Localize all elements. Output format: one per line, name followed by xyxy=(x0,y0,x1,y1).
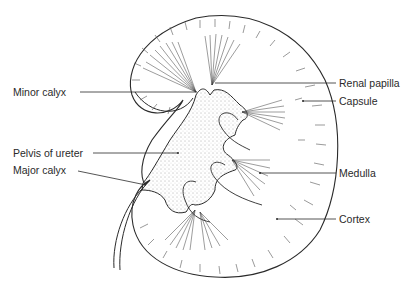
label-renal-papilla: Renal papilla xyxy=(339,77,400,89)
label-pelvis-of-ureter: Pelvis of ureter xyxy=(13,147,83,159)
kidney-illustration xyxy=(0,0,411,287)
kidney-diagram: Minor calyx Pelvis of ureter Major calyx… xyxy=(0,0,411,287)
cortex-striations xyxy=(132,19,326,274)
label-minor-calyx: Minor calyx xyxy=(13,86,66,98)
label-medulla: Medulla xyxy=(339,167,376,179)
pelvis-region xyxy=(142,89,247,213)
label-cortex: Cortex xyxy=(339,213,370,225)
label-capsule: Capsule xyxy=(339,95,378,107)
label-major-calyx: Major calyx xyxy=(13,164,66,176)
kidney-capsule-outline xyxy=(130,16,337,278)
